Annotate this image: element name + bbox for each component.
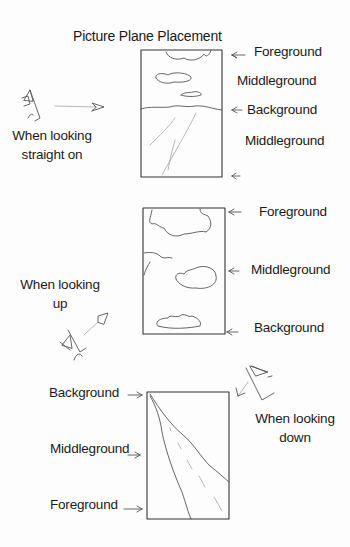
caption-straight-on-line2: straight on: [12, 147, 92, 162]
caption-looking-up-line2: up: [20, 296, 100, 311]
caption-looking-down-line2: down: [255, 430, 335, 445]
caption-looking-down-line1: When looking: [255, 411, 335, 426]
label-foreground: Foreground: [259, 204, 327, 219]
panel-looking-up-pointers: [227, 209, 241, 335]
page-title: Picture Plane Placement: [73, 29, 222, 44]
label-middleground: Middleground: [237, 73, 316, 88]
eye-sketch-icon-down: [246, 366, 274, 400]
panel-straight-on-pointers: [232, 52, 245, 179]
panel-looking-down-frame: [147, 392, 229, 519]
arrow-pointer-icon-down: [236, 382, 248, 396]
label-foreground: Foreground: [50, 497, 118, 512]
label-middleground: Middleground: [50, 441, 129, 456]
arrow-pointer-icon-up: [84, 313, 108, 335]
label-middleground: Middleground: [251, 262, 330, 277]
eye-sketch-icon: [22, 90, 40, 121]
label-background: Background: [247, 102, 317, 117]
eye-sketch-icon-up: [60, 330, 86, 360]
label-middleground-lower: Middleground: [245, 133, 324, 148]
arrow-pointer-icon: [55, 103, 104, 111]
panel-straight-on-frame: [141, 50, 222, 177]
caption-straight-on-line1: When looking: [12, 128, 92, 143]
label-foreground: Foreground: [254, 44, 322, 59]
caption-looking-up-line1: When looking: [20, 277, 100, 292]
label-background: Background: [254, 320, 324, 335]
panel-looking-up-frame: [143, 208, 225, 334]
label-background: Background: [49, 385, 119, 400]
